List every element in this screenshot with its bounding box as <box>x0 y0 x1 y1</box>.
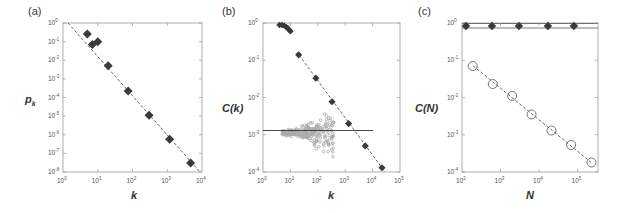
y-tick-label: 10-1 <box>48 37 60 45</box>
circle-marker <box>567 141 576 150</box>
panel-b-y-axis-label: C(k) <box>222 102 244 114</box>
y-tick-label: 10-3 <box>248 130 260 138</box>
y-tick-label: 10-2 <box>248 93 260 101</box>
circle-marker <box>325 118 328 121</box>
circle-marker <box>322 125 325 128</box>
x-tick-label: 100 <box>57 176 67 184</box>
x-tick-label: 101 <box>92 176 102 184</box>
diamond-marker <box>186 159 195 168</box>
x-tick-label: 105 <box>394 176 404 184</box>
y-tick-label: 100 <box>48 18 58 26</box>
circle-marker <box>488 80 497 89</box>
panel-a: (a) 10010-110-210-310-410-510-610-710-8 … <box>24 5 206 201</box>
panel-b-label: (b) <box>222 5 235 17</box>
x-tick-label: 104 <box>196 176 206 184</box>
circle-marker <box>315 147 318 150</box>
circle-marker <box>327 131 330 134</box>
y-tick-label: 10-6 <box>48 130 60 138</box>
circle-marker <box>508 91 517 100</box>
circle-marker <box>319 137 322 140</box>
y-tick-label: 10-7 <box>48 148 60 156</box>
circle-marker <box>332 147 335 150</box>
circle-marker <box>323 113 326 116</box>
x-tick-label: 105 <box>572 176 582 184</box>
panel-c-x-ticks: 102103104105 <box>456 23 582 184</box>
y-tick-label: 10-1 <box>248 55 260 63</box>
y-tick-label: 100 <box>248 18 258 26</box>
y-tick-label: 10-4 <box>248 167 260 175</box>
circle-marker <box>587 158 596 167</box>
x-tick-label: 104 <box>367 176 377 184</box>
panel-b-x-axis-label: k <box>328 189 335 201</box>
figure: (a) 10010-110-210-310-410-510-610-710-8 … <box>0 0 623 213</box>
circle-marker <box>318 123 321 126</box>
y-tick-label: 10-3 <box>447 130 459 138</box>
circle-marker <box>327 150 330 153</box>
circle-marker <box>319 119 322 122</box>
panel-a-label: (a) <box>28 5 41 17</box>
circle-marker <box>328 124 331 127</box>
ylabel-sub: k <box>32 100 37 107</box>
panel-a-y-ticks: 10010-110-210-310-410-510-610-710-8 <box>48 18 202 175</box>
x-tick-label: 103 <box>495 176 505 184</box>
circle-marker <box>332 155 335 158</box>
circle-marker <box>324 134 327 137</box>
circle-marker <box>326 127 329 130</box>
x-tick-label: 102 <box>127 176 137 184</box>
panel-c-x-axis-label: N <box>526 189 535 201</box>
diamond-marker <box>295 51 302 58</box>
x-tick-label: 101 <box>284 176 294 184</box>
y-tick-label: 10-2 <box>48 55 60 63</box>
diamond-marker <box>378 164 385 171</box>
panel-c: (c) 10010-110-210-310-4 102103104105 C(N… <box>415 5 598 201</box>
y-tick-label: 10-4 <box>48 93 60 101</box>
x-tick-label: 102 <box>456 176 466 184</box>
circle-marker <box>319 141 322 144</box>
circle-marker <box>328 138 331 141</box>
panel-a-x-axis-label: k <box>131 189 138 201</box>
panel-b: (b) 10010-110-210-310-4 1001011021031041… <box>222 5 404 201</box>
y-tick-label: 10-1 <box>447 55 459 63</box>
diamond-marker <box>165 135 174 144</box>
circle-marker <box>322 150 325 153</box>
x-tick-label: 103 <box>161 176 171 184</box>
y-tick-label: 100 <box>447 18 457 26</box>
circle-marker <box>328 134 331 137</box>
x-tick-label: 103 <box>339 176 349 184</box>
diamond-marker <box>328 98 335 105</box>
panel-b-y-ticks: 10010-110-210-310-4 <box>248 18 400 175</box>
panel-b-scatter-cloud <box>281 113 335 158</box>
diamond-marker <box>345 120 352 127</box>
y-tick-label: 10-4 <box>447 167 459 175</box>
panel-c-y-axis-label: C(N) <box>415 102 439 114</box>
y-tick-label: 10-5 <box>48 111 60 119</box>
panel-a-x-ticks: 100101102103104 <box>57 23 206 184</box>
panel-c-label: (c) <box>418 5 431 17</box>
circle-marker <box>316 139 319 142</box>
y-tick-label: 10-3 <box>48 74 60 82</box>
x-tick-label: 100 <box>257 176 267 184</box>
x-tick-label: 104 <box>533 176 543 184</box>
y-tick-label: 10-2 <box>447 93 459 101</box>
x-tick-label: 102 <box>312 176 322 184</box>
panel-a-fit-line <box>68 23 200 172</box>
y-tick-label: 10-8 <box>48 167 60 175</box>
circle-marker <box>318 145 321 148</box>
panel-c-y-ticks: 10010-110-210-310-4 <box>447 18 598 175</box>
panel-a-y-axis-label: pk <box>24 93 37 107</box>
circle-marker <box>527 110 536 119</box>
diamond-marker <box>104 61 113 70</box>
circle-marker <box>332 151 335 154</box>
panel-b-plot-frame <box>263 23 400 172</box>
panel-a-plot-frame <box>63 23 202 172</box>
panel-c-plot-frame <box>462 23 598 172</box>
circle-marker <box>317 128 320 131</box>
diamond-marker <box>83 29 92 38</box>
circle-marker <box>329 119 332 122</box>
panel-b-fit-line <box>299 55 385 172</box>
